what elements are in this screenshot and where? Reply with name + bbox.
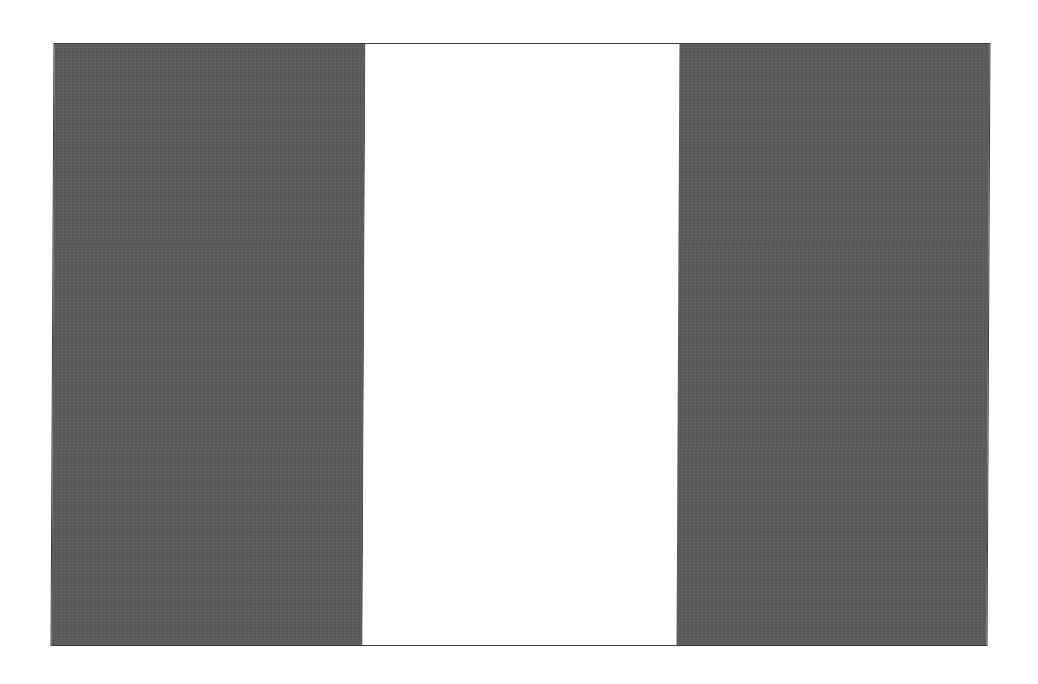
tricolor-flag	[51, 43, 991, 646]
flag-center-band	[363, 44, 680, 645]
flag-left-band	[52, 44, 366, 645]
flag-right-band	[677, 44, 990, 645]
